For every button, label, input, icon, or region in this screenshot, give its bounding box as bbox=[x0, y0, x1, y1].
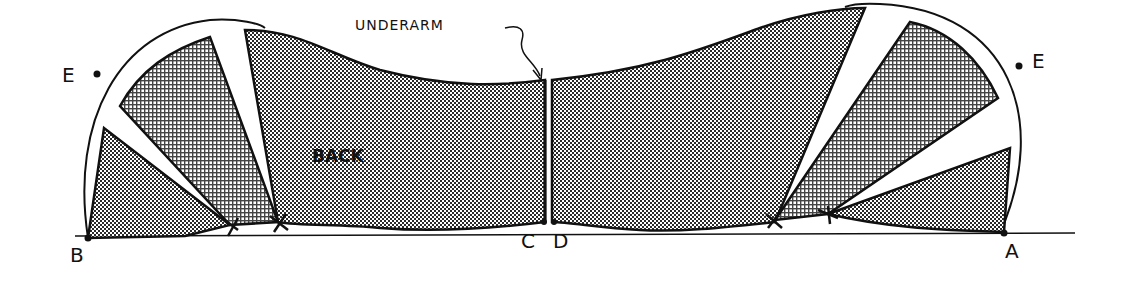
pattern-diagram: E E B C D A UNDERARM BACK bbox=[0, 0, 1127, 283]
label-a: A bbox=[1005, 239, 1019, 263]
back-panel bbox=[245, 30, 545, 230]
point-e-right-dot bbox=[1016, 63, 1023, 70]
label-underarm: UNDERARM bbox=[355, 17, 444, 33]
label-back: BACK bbox=[312, 146, 365, 166]
point-b-dot bbox=[85, 235, 92, 242]
baseline bbox=[75, 233, 1075, 236]
label-e-right: E bbox=[1032, 49, 1045, 73]
label-e-left: E bbox=[62, 63, 75, 87]
point-a-dot bbox=[1001, 230, 1008, 237]
point-e-left-dot bbox=[94, 71, 101, 78]
label-b: B bbox=[70, 243, 84, 267]
label-c: C bbox=[521, 229, 535, 253]
point-c-dot bbox=[541, 219, 547, 225]
underarm-arrow bbox=[505, 27, 540, 76]
point-d-dot bbox=[551, 219, 557, 225]
label-d: D bbox=[553, 229, 568, 253]
